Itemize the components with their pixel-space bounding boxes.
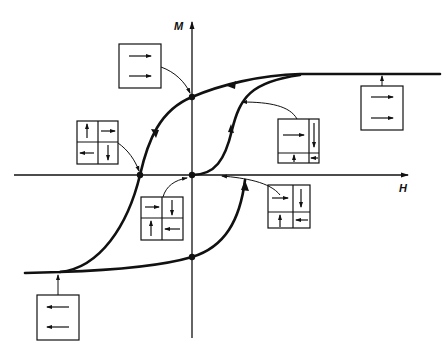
coercive-box [77,121,118,164]
hysteresis-diagram: H M [0,0,442,355]
initial-low-box [268,185,310,228]
leader-coercive [118,143,139,171]
arrow-lower-up [241,180,249,191]
axes: H M [14,20,408,338]
lower-branch [60,180,245,272]
leader-initial-growth [242,102,297,119]
positive-saturation-box [361,86,403,130]
leader-lines [58,67,382,295]
leader-demagnetized [163,178,187,197]
negative-saturation-box [37,295,79,340]
leader-remanence [161,67,190,93]
upper-branch [25,74,440,273]
remanence-box [119,44,161,88]
key-points [137,94,195,260]
origin-dot [189,172,195,178]
remanence-dot [189,94,195,100]
demagnetized-box [141,197,183,240]
coercivity-dot [137,172,143,178]
domain-boxes [37,44,403,340]
m-axis-label: M [174,20,184,32]
negative-remanence-dot [189,254,195,260]
hysteresis-loop [25,74,440,273]
h-axis-label: H [399,182,408,194]
initial-growth-box [278,119,319,163]
